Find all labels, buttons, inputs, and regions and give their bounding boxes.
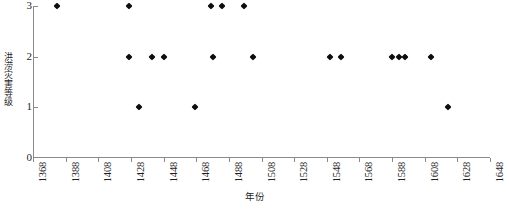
- x-axis-tick-label: 1368: [37, 162, 48, 182]
- plot-area: [33, 6, 490, 158]
- x-axis-tick-label: 1448: [168, 162, 179, 182]
- data-point: [444, 104, 451, 111]
- y-axis-tick-label: 0: [18, 152, 32, 163]
- x-axis-tick-label: 1608: [429, 162, 440, 182]
- x-axis-tick-mark: [490, 158, 491, 162]
- y-axis-title: 洪涝灾害等级: [1, 14, 15, 144]
- y-axis-line: [33, 6, 34, 158]
- data-point: [191, 104, 198, 111]
- x-axis-tick-label: 1428: [135, 162, 146, 182]
- data-point: [126, 53, 133, 60]
- data-point: [250, 53, 257, 60]
- data-point: [327, 53, 334, 60]
- data-point: [160, 53, 167, 60]
- y-axis-tick-mark: [34, 6, 38, 7]
- x-axis-tick-label: 1408: [102, 162, 113, 182]
- y-axis-tick-label: 2: [18, 51, 32, 62]
- y-axis-tick-label: 3: [18, 0, 32, 11]
- data-point: [207, 2, 214, 9]
- data-point: [428, 53, 435, 60]
- x-axis-tick-labels: 1368138814081428144814681488150815281548…: [33, 162, 490, 194]
- x-axis-tick-label: 1588: [396, 162, 407, 182]
- x-axis-title: 年份: [0, 192, 509, 203]
- data-point: [136, 104, 143, 111]
- x-axis-tick-label: 1488: [233, 162, 244, 182]
- data-point: [338, 53, 345, 60]
- y-axis-tick-mark: [34, 57, 38, 58]
- data-point: [149, 53, 156, 60]
- data-point: [219, 2, 226, 9]
- data-point: [126, 2, 133, 9]
- y-axis-tick-mark: [34, 107, 38, 108]
- x-axis-tick-label: 1468: [200, 162, 211, 182]
- x-axis-tick-label: 1548: [331, 162, 342, 182]
- data-point: [209, 53, 216, 60]
- x-axis-tick-label: 1508: [266, 162, 277, 182]
- flood-disaster-grade-scatter-chart: 洪涝灾害等级 0123 1368138814081428144814681488…: [0, 0, 509, 210]
- data-point: [240, 2, 247, 9]
- x-axis-tick-label: 1528: [298, 162, 309, 182]
- x-axis-tick-label: 1628: [461, 162, 472, 182]
- x-axis-tick-label: 1648: [494, 162, 505, 182]
- data-point: [54, 2, 61, 9]
- y-axis-tick-label: 1: [18, 101, 32, 112]
- x-axis-tick-label: 1388: [70, 162, 81, 182]
- y-axis-tick-labels: 0123: [14, 0, 32, 170]
- data-point: [402, 53, 409, 60]
- x-axis-tick-label: 1568: [363, 162, 374, 182]
